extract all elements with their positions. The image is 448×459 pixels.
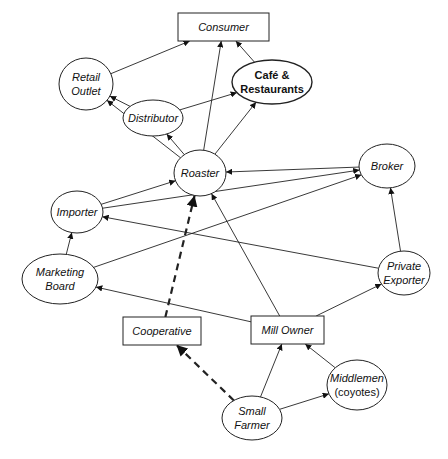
edge-cafe-to-consumer <box>236 41 255 62</box>
node-label: Middlemen <box>330 372 384 384</box>
node-label: Exporter <box>383 274 426 286</box>
node-label: Distributor <box>128 112 179 124</box>
node-consumer: Consumer <box>178 13 269 41</box>
ellipse-shape <box>327 360 387 410</box>
node-label: Small <box>238 405 266 417</box>
edge-farmer-to-millowner <box>261 344 282 397</box>
node-millowner: Mill Owner <box>251 316 324 344</box>
node-label: Consumer <box>198 21 250 33</box>
edge-farmer-to-middlemen <box>280 394 329 410</box>
edge-retail-to-consumer <box>111 41 190 74</box>
edges-layer <box>66 41 400 409</box>
edge-exporter-to-broker <box>390 188 400 251</box>
edge-millowner-to-roaster <box>211 194 279 316</box>
edge-cooperative-to-roaster <box>165 195 194 317</box>
node-label: Importer <box>57 206 99 218</box>
node-label: Roaster <box>181 167 221 179</box>
ellipse-shape <box>378 251 430 295</box>
node-label: Broker <box>371 160 405 172</box>
edge-middlemen-to-millowner <box>305 344 335 368</box>
node-cafe: Café &Restaurants <box>232 60 312 104</box>
ellipse-shape <box>232 60 312 104</box>
node-label: (coyotes) <box>334 386 379 398</box>
ellipse-shape <box>59 58 113 110</box>
node-farmer: SmallFarmer <box>222 396 282 440</box>
node-distributor: Distributor <box>123 100 183 136</box>
ellipse-shape <box>22 254 98 304</box>
edge-distributor-to-cafe <box>180 93 237 110</box>
node-label: Retail <box>72 71 101 83</box>
ellipse-shape <box>222 396 282 440</box>
node-cooperative: Cooperative <box>123 317 201 345</box>
edge-farmer-to-cooperative <box>176 345 233 400</box>
node-label: Marketing <box>36 266 85 278</box>
edge-broker-to-roaster <box>226 167 359 172</box>
edge-roaster-to-distributor <box>167 134 185 155</box>
edge-marketing-to-importer <box>66 233 72 255</box>
node-middlemen: Middlemen(coyotes) <box>327 360 387 410</box>
node-label: Cooperative <box>132 325 191 337</box>
node-label: Café & <box>255 69 290 81</box>
node-roaster: Roaster <box>174 150 226 196</box>
edge-exporter-to-importer <box>102 217 378 269</box>
node-label: Farmer <box>234 419 271 431</box>
edge-importer-to-roaster <box>101 181 175 205</box>
edge-roaster-to-cafe <box>215 102 256 154</box>
node-label: Outlet <box>71 85 101 97</box>
node-retail: RetailOutlet <box>59 58 113 110</box>
edge-roaster-to-consumer <box>204 41 222 150</box>
node-label: Restaurants <box>240 83 304 95</box>
coffee-value-chain-diagram: ConsumerRetailOutletCafé &RestaurantsDis… <box>0 0 448 459</box>
node-exporter: PrivateExporter <box>378 251 430 295</box>
node-marketing: MarketingBoard <box>22 254 98 304</box>
edge-marketing-to-broker <box>94 175 362 268</box>
node-broker: Broker <box>359 144 415 188</box>
node-label: Private <box>387 260 421 272</box>
node-label: Board <box>45 280 75 292</box>
node-importer: Importer <box>51 191 103 233</box>
edge-millowner-to-exporter <box>316 284 381 316</box>
nodes-layer: ConsumerRetailOutletCafé &RestaurantsDis… <box>22 13 430 440</box>
node-label: Mill Owner <box>262 324 315 336</box>
